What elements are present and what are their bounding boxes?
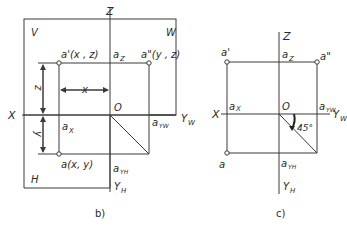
svg-text:a: a [113,163,119,174]
label-ax: a X [62,121,74,135]
svg-text:a: a [62,121,68,132]
svg-text:YH: YH [120,168,129,175]
svg-text:a: a [229,101,235,112]
label-a: a [219,159,225,170]
point-a-double-prime [315,60,319,64]
label-ax: a X [229,101,241,113]
label-origin: O [114,102,122,113]
diagonal-45-line [279,114,317,153]
svg-text:YH: YH [288,163,297,170]
point-a-prime [57,61,61,65]
label-ayh: a YH [113,163,129,175]
svg-text:a: a [282,49,288,60]
svg-text:W: W [188,119,196,127]
label-a-coords: a(x, y) [61,159,93,170]
label-az: a Z [113,49,125,63]
caption-b: b) [95,208,105,219]
svg-text:Y: Y [283,181,290,192]
svg-text:YW: YW [159,122,170,129]
svg-text:W: W [340,115,347,123]
dim-label-x: x [81,84,88,95]
label-x-axis: X [7,109,16,122]
point-a-double-prime [147,61,151,65]
svg-text:a: a [152,117,158,128]
angle-arrowhead-icon [289,126,295,131]
label-ayh: a YH [281,158,297,170]
label-a-prime-coords: a'(x , z) [61,49,98,60]
label-yw-axis: Y W [181,113,196,127]
label-ayw: a YW [152,117,170,129]
label-yh-axis: Y H [283,181,296,195]
svg-text:a: a [319,101,325,112]
label-plane-h: H [31,174,39,185]
svg-text:X: X [235,105,241,113]
svg-text:X: X [68,127,74,135]
label-plane-v: V [31,27,39,38]
label-az: a Z [282,49,294,63]
label-yh-axis: Y H [114,181,127,195]
label-z-axis: Z [105,5,114,18]
label-x-axis: X [211,108,220,121]
figure-c: Z X O a' a" a a Z a X a YW Y W a YH Y H … [211,30,347,219]
label-a-prime: a' [221,47,230,58]
label-angle-45: 45° [297,123,313,133]
svg-text:H: H [121,187,127,195]
dim-label-y: y [33,130,44,138]
figure-b: Z V W H X O a'(x , z) a"(y , z) a(x, y) … [7,5,196,219]
svg-text:Y: Y [114,181,121,192]
caption-c: c) [276,208,285,219]
vw-plane-frame [24,19,176,115]
diagonal-45-line [110,115,149,154]
label-a-double-prime: a" [320,51,331,62]
point-a [225,151,229,155]
angle-arc-icon [292,114,295,128]
label-a-double-prime-coords: a"(y , z) [141,49,180,60]
label-yw-axis: Y W [333,109,347,123]
svg-text:a: a [281,158,287,169]
svg-text:H: H [290,187,296,195]
label-plane-w: W [166,27,177,38]
point-a [57,152,61,156]
svg-text:Z: Z [119,55,125,63]
svg-text:Z: Z [288,55,294,63]
label-z-axis: Z [282,30,291,43]
projection-diagram: Z V W H X O a'(x , z) a"(y , z) a(x, y) … [0,0,347,228]
svg-text:Y: Y [181,113,188,124]
svg-text:Y: Y [333,109,340,120]
label-origin: O [282,101,290,112]
dim-label-z: z [33,84,44,91]
point-a-prime [225,60,229,64]
svg-text:a: a [113,49,119,60]
